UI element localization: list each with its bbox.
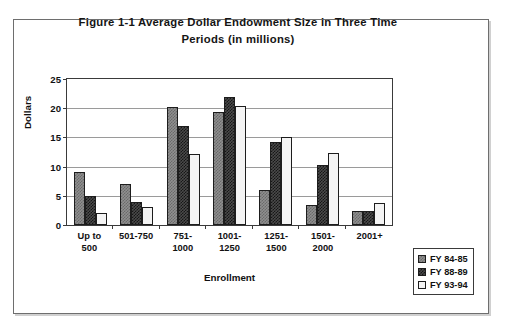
- x-axis-tick-label-line: 1250: [206, 242, 253, 254]
- x-axis-tick-mark: [298, 225, 299, 229]
- x-axis-tick-mark: [345, 225, 346, 229]
- x-axis-tick-label: 751-1000: [159, 230, 206, 254]
- x-axis-tick-label-line: 2000: [300, 242, 347, 254]
- x-axis-tick-label-line: 751-: [159, 230, 206, 242]
- bar: [224, 97, 235, 225]
- bar: [189, 154, 200, 225]
- figure-screenshot: Figure 1-1 Average Dollar Endowment Size…: [0, 0, 505, 335]
- x-axis-tick-label-line: 500: [66, 242, 113, 254]
- chart-title-line-2: Periods (in millions): [40, 31, 436, 48]
- x-axis-title: Enrollment: [66, 272, 393, 283]
- x-axis-tick-label-line: 1001-: [206, 230, 253, 242]
- plot-area: 0510152025: [66, 78, 393, 226]
- bar: [167, 107, 178, 225]
- bar: [96, 213, 107, 225]
- bar: [142, 207, 153, 225]
- x-axis-tick-mark: [252, 225, 253, 229]
- legend-swatch: [418, 281, 426, 289]
- legend-item: FY 88-89: [418, 265, 468, 278]
- legend-label: FY 88-89: [430, 267, 468, 277]
- bar: [363, 211, 374, 225]
- bar-group: [206, 79, 252, 225]
- bar: [131, 202, 142, 225]
- legend-item: FY 84-85: [418, 252, 468, 265]
- y-axis-tick-label: 5: [56, 190, 61, 201]
- bar-group: [253, 79, 299, 225]
- x-axis-tick-mark: [205, 225, 206, 229]
- x-axis-tick-label: 1501-2000: [300, 230, 347, 254]
- chart-legend: FY 84-85FY 88-89FY 93-94: [413, 248, 474, 295]
- x-axis-tick-label: 1251-1500: [253, 230, 300, 254]
- bar: [235, 106, 246, 225]
- y-axis-tick-label: 15: [50, 132, 61, 143]
- bar: [213, 112, 224, 225]
- x-axis-tick-label: 501-750: [113, 230, 160, 254]
- bar: [317, 165, 328, 225]
- bar: [328, 153, 339, 225]
- x-axis-tick-mark: [159, 225, 160, 229]
- bar: [74, 172, 85, 225]
- legend-swatch: [418, 268, 426, 276]
- x-axis-tick-label: 1001-1250: [206, 230, 253, 254]
- bar: [374, 203, 385, 225]
- x-axis-tick-label-line: 1500: [253, 242, 300, 254]
- bar: [85, 196, 96, 225]
- bar: [270, 142, 281, 226]
- x-axis-tick-label-line: 1251-: [253, 230, 300, 242]
- x-axis-tick-label-line: Up to: [66, 230, 113, 242]
- legend-label: FY 93-94: [430, 280, 468, 290]
- bar: [306, 205, 317, 225]
- legend-label: FY 84-85: [430, 254, 468, 264]
- y-axis-title: Dollars: [22, 96, 33, 129]
- x-axis-tick-label-line: 1501-: [300, 230, 347, 242]
- y-axis-tick-label: 20: [50, 103, 61, 114]
- bar-group: [67, 79, 113, 225]
- bar: [259, 190, 270, 225]
- y-axis-tick-label: 0: [56, 220, 61, 231]
- legend-item: FY 93-94: [418, 278, 468, 291]
- bar-group: [113, 79, 159, 225]
- x-axis-tick-label: 2001+: [346, 230, 393, 254]
- x-axis-tick-label-line: 1000: [159, 242, 206, 254]
- bars-layer: [67, 79, 392, 225]
- bar: [281, 137, 292, 225]
- legend-swatch: [418, 255, 426, 263]
- y-axis-tick-mark: [63, 225, 67, 226]
- chart-title: Figure 1-1 Average Dollar Endowment Size…: [40, 14, 436, 48]
- bar: [352, 211, 363, 225]
- bar: [120, 184, 131, 225]
- bar-group: [299, 79, 345, 225]
- y-axis-tick-label: 10: [50, 161, 61, 172]
- bar-group: [160, 79, 206, 225]
- x-axis-tick-label-line: 2001+: [346, 230, 393, 242]
- x-axis-tick-mark: [112, 225, 113, 229]
- x-axis-tick-labels: Up to500501-750751-10001001-12501251-150…: [66, 230, 393, 254]
- bar: [178, 126, 189, 225]
- y-axis-tick-label: 25: [50, 74, 61, 85]
- bar-group: [346, 79, 392, 225]
- x-axis-tick-label: Up to500: [66, 230, 113, 254]
- chart-title-line-1: Figure 1-1 Average Dollar Endowment Size…: [79, 16, 398, 28]
- x-axis-tick-label-line: 501-750: [113, 230, 160, 242]
